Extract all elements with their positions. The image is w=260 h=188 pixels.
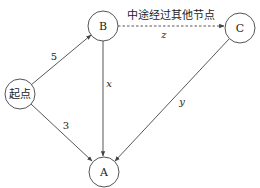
diagram-canvas: 5 3 x z y 中途经过其他节点 起点 B C A <box>0 0 260 188</box>
node-a-label: A <box>99 166 109 179</box>
edge-c-to-a <box>115 39 229 161</box>
edge-label-start-a: 3 <box>63 120 69 131</box>
node-a: A <box>89 157 119 187</box>
edge-label-b-a: x <box>106 78 112 89</box>
node-c: C <box>225 13 255 43</box>
edge-start-to-a <box>31 104 92 161</box>
edge-label-c-a: y <box>178 96 185 107</box>
edge-label-start-b: 5 <box>51 51 57 62</box>
node-start-label: 起点 <box>9 88 31 101</box>
node-c-label: C <box>236 22 244 35</box>
edge-start-to-b <box>31 35 91 85</box>
edge-note-b-c: 中途经过其他节点 <box>127 8 215 22</box>
node-b-label: B <box>99 20 107 33</box>
node-start: 起点 <box>5 79 35 109</box>
node-b: B <box>88 11 118 41</box>
edge-label-b-c: z <box>160 29 167 40</box>
